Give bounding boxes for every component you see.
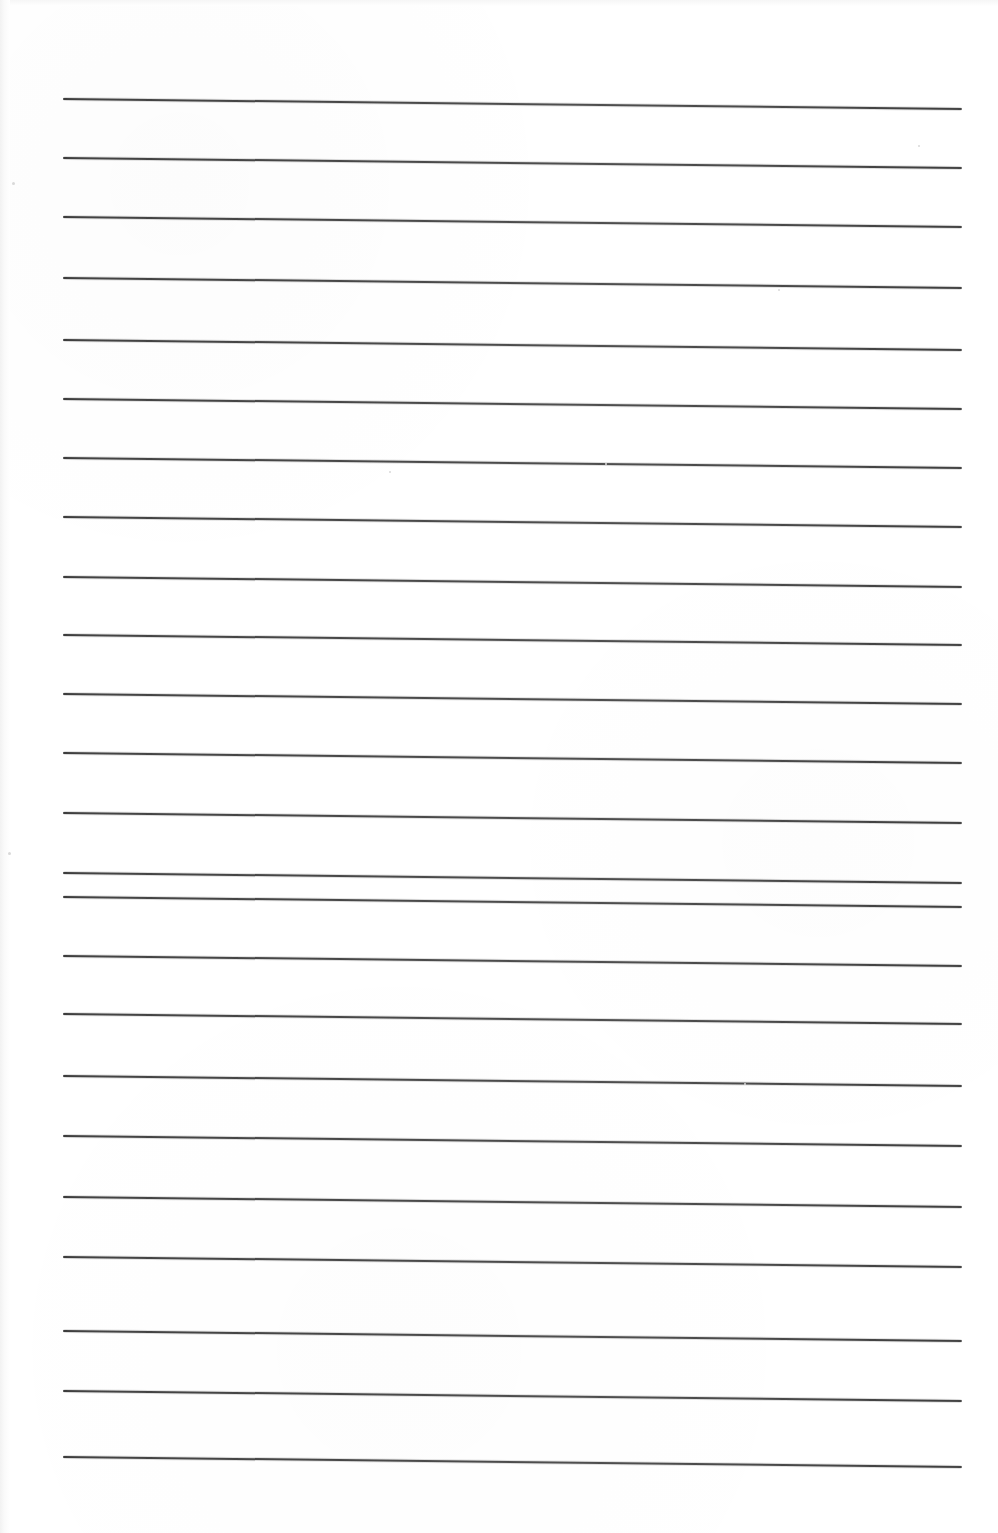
ruled-line — [63, 339, 962, 351]
scan-speck — [12, 182, 15, 185]
ruled-line — [63, 1330, 962, 1342]
ruled-line — [63, 634, 962, 646]
scanned-page — [0, 0, 998, 1533]
ruled-line — [63, 1013, 962, 1025]
ruled-line — [63, 98, 962, 110]
ruled-line — [63, 1075, 962, 1087]
ruled-line — [63, 216, 962, 228]
ruled-line — [63, 1390, 962, 1402]
ruled-line — [63, 812, 962, 824]
scan-speck — [389, 471, 391, 473]
ruled-line — [63, 516, 962, 528]
ruled-line — [63, 157, 962, 169]
paper-texture-overlay — [0, 0, 998, 1533]
ruled-line — [63, 457, 962, 469]
ruled-line — [63, 872, 962, 884]
ruled-line — [63, 1135, 962, 1147]
ruled-line — [63, 896, 962, 908]
ruled-line — [63, 1196, 962, 1208]
ruled-line — [63, 1456, 962, 1468]
ruled-line — [63, 277, 962, 289]
ruled-line — [63, 693, 962, 705]
scan-speck — [8, 852, 11, 855]
scan-edge-top — [0, 0, 998, 6]
ruled-line — [63, 576, 962, 588]
ruled-line — [63, 752, 962, 764]
ruled-line — [63, 398, 962, 410]
scan-speck — [918, 145, 920, 147]
scan-edge-left — [0, 0, 10, 1533]
scan-speck — [778, 289, 780, 291]
ruled-line — [63, 955, 962, 967]
ruled-line — [63, 1256, 962, 1268]
